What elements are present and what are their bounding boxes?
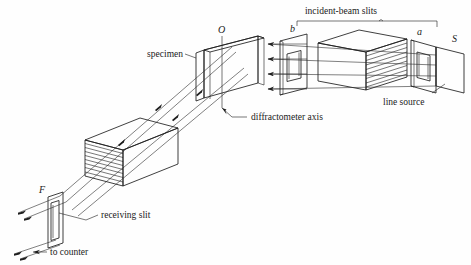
- to-counter-label: to counter: [50, 247, 89, 257]
- line-source-label: line source: [383, 97, 424, 107]
- diffractometer-figure: incident-beam slits S a: [0, 0, 471, 265]
- label-F: F: [38, 184, 46, 195]
- label-S: S: [452, 33, 457, 44]
- figure-canvas: incident-beam slits S a: [0, 0, 471, 265]
- diffractometer-axis-label: diffractometer axis: [251, 112, 323, 122]
- label-b: b: [290, 23, 295, 34]
- receiving-slit-label: receiving slit: [101, 210, 151, 220]
- specimen-label: specimen: [147, 49, 183, 59]
- label-a: a: [417, 26, 422, 37]
- figure-background: [0, 0, 471, 265]
- incident-beam-slits-label: incident-beam slits: [305, 6, 377, 16]
- label-O: O: [218, 24, 225, 35]
